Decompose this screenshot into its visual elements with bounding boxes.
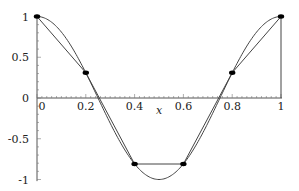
data-point-marker [229, 71, 235, 75]
x-tick-label: 1 [278, 100, 285, 113]
data-point-marker [278, 14, 284, 18]
y-tick-label: 0.5 [12, 51, 30, 64]
x-tick-label: 0.2 [77, 100, 95, 113]
x-tick-label: 0.4 [126, 100, 144, 113]
data-point-marker [180, 162, 186, 166]
data-point-marker [34, 14, 40, 18]
y-tick-label: -0.5 [8, 133, 29, 146]
x-axis-label: x [156, 104, 163, 117]
x-tick-label: 0 [39, 100, 46, 113]
data-point-marker [83, 71, 89, 75]
interpolant-line [37, 17, 281, 165]
y-tick-label: 0 [22, 92, 29, 105]
x-tick-label: 0.8 [223, 100, 241, 113]
y-tick-label: 1 [22, 11, 29, 24]
x-tick-label: 0.6 [175, 100, 193, 113]
y-tick-label: -1 [18, 174, 29, 187]
axes [37, 15, 282, 181]
chart: 00.20.40.60.8110.50-0.5-1x [0, 0, 299, 191]
data-point-marker [131, 162, 137, 166]
